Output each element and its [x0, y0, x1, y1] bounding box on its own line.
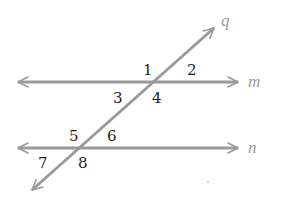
transversal-q	[32, 28, 214, 190]
label-m: m	[248, 72, 260, 91]
angle-3: 3	[113, 89, 123, 107]
angle-2: 2	[187, 61, 197, 79]
angle-7: 7	[38, 154, 48, 172]
angle-5: 5	[69, 127, 79, 145]
scan-artifact	[207, 181, 209, 183]
diagram-canvas: q m n 1 2 3 4 5 6 7 8	[0, 0, 281, 197]
label-n: n	[248, 138, 257, 157]
angle-1: 1	[143, 61, 153, 79]
angle-4: 4	[152, 89, 162, 107]
angle-8: 8	[78, 154, 88, 172]
angle-6: 6	[107, 127, 117, 145]
label-q: q	[221, 11, 230, 30]
